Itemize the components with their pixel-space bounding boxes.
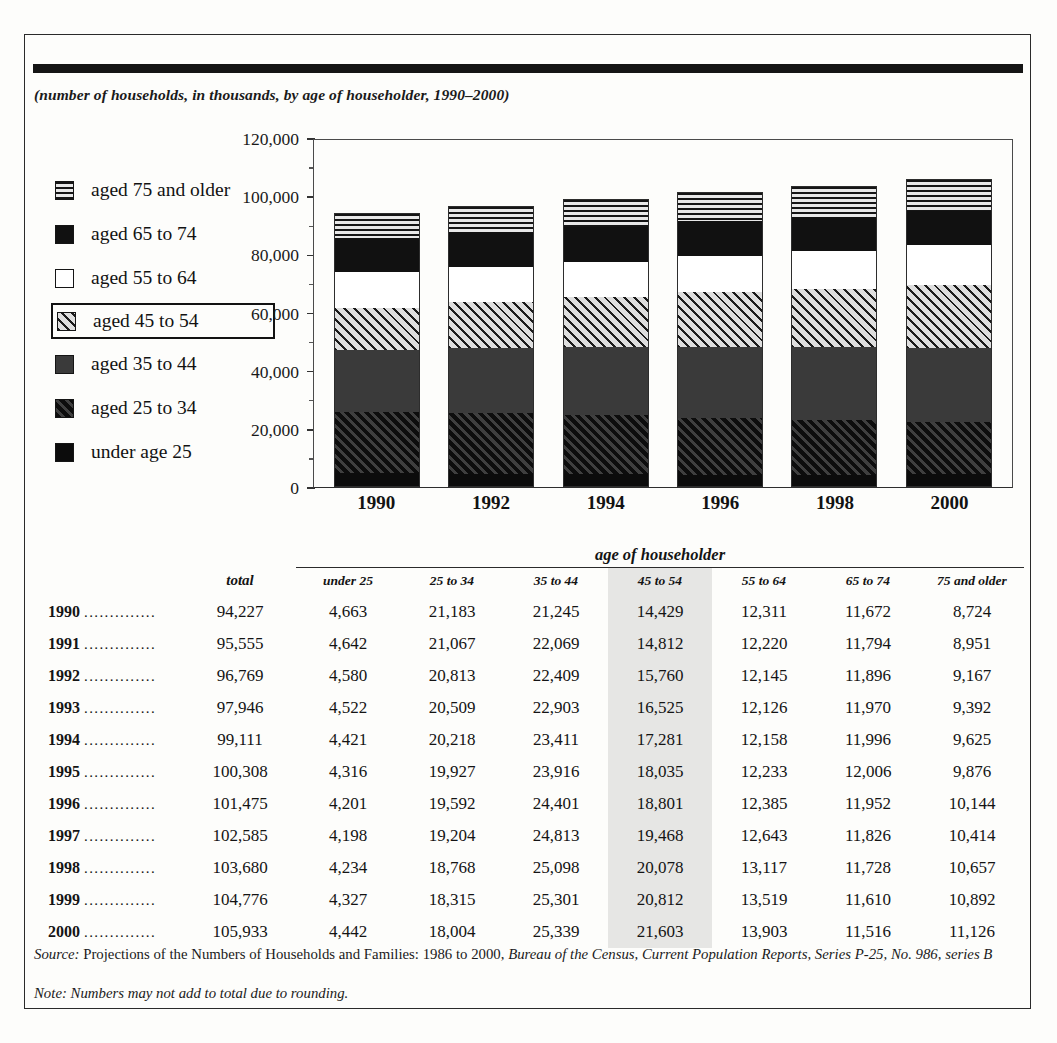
- table-cell: 9,625: [920, 724, 1024, 756]
- row-year: 1992 ..............: [34, 660, 184, 692]
- bar-segment: [677, 221, 763, 256]
- bar-segment: [448, 232, 534, 267]
- table-cell: 23,916: [504, 756, 608, 788]
- row-total: 96,769: [184, 660, 296, 692]
- source-text: Projections of the Numbers of Households…: [79, 946, 508, 962]
- x-axis-label: 1998: [792, 492, 878, 526]
- table-cell: 4,316: [296, 756, 400, 788]
- column-header-under-25: under 25: [296, 568, 400, 596]
- chart-plot-area: [313, 139, 1013, 488]
- bar-1994[interactable]: [563, 199, 649, 487]
- x-axis-labels: 199019921994199619982000: [313, 492, 1013, 526]
- y-axis: 120,000100,00080,00060,00040,00020,0000: [0, 139, 313, 488]
- table-row[interactable]: 1993 ..............97,9464,52220,50922,9…: [34, 692, 1024, 724]
- bar-segment: [677, 418, 763, 475]
- bar-1996[interactable]: [677, 192, 763, 487]
- source-citation: Bureau of the Census, Current Population…: [508, 946, 992, 962]
- y-axis-tick-label: 120,000: [242, 129, 299, 150]
- bar-1998[interactable]: [791, 186, 877, 487]
- bar-segment: [334, 412, 420, 474]
- bar-segment: [334, 272, 420, 308]
- year-column-header: [34, 568, 184, 596]
- row-total: 95,555: [184, 628, 296, 660]
- table-row[interactable]: 1998 ..............103,6804,23418,76825,…: [34, 852, 1024, 884]
- table-cell: 12,145: [712, 660, 816, 692]
- bar-segment: [448, 348, 534, 413]
- y-axis-tick-label: 80,000: [251, 245, 299, 266]
- row-total: 99,111: [184, 724, 296, 756]
- table-cell: 11,672: [816, 596, 920, 628]
- bar-segment: [791, 217, 877, 251]
- table-cell: 24,401: [504, 788, 608, 820]
- table-cell: 11,826: [816, 820, 920, 852]
- row-year: 1993 ..............: [34, 692, 184, 724]
- table-row[interactable]: 1991 ..............95,5554,64221,06722,0…: [34, 628, 1024, 660]
- table-cell: 12,643: [712, 820, 816, 852]
- table-cell: 4,327: [296, 884, 400, 916]
- table-cell: 11,610: [816, 884, 920, 916]
- bar-segment: [334, 238, 420, 272]
- y-axis-tick-label: 20,000: [251, 419, 299, 440]
- data-table-wrap: age of householder totalunder 2525 to 34…: [34, 545, 1024, 948]
- table-cell: 14,812: [608, 628, 712, 660]
- table-cell: 18,801: [608, 788, 712, 820]
- bar-segment: [563, 199, 649, 227]
- table-cell: 14,429: [608, 596, 712, 628]
- table-column-header-row: totalunder 2525 to 3435 to 4445 to 5455 …: [34, 568, 1024, 596]
- table-row[interactable]: 1994 ..............99,1114,42120,21823,4…: [34, 724, 1024, 756]
- bar-segment: [563, 415, 649, 474]
- table-row[interactable]: 1997 ..............102,5854,19819,20424,…: [34, 820, 1024, 852]
- table-cell: 21,067: [400, 628, 504, 660]
- y-axis-tick-label: 100,000: [242, 187, 299, 208]
- row-year: 1994 ..............: [34, 724, 184, 756]
- table-cell: 4,234: [296, 852, 400, 884]
- table-cell: 20,509: [400, 692, 504, 724]
- spacer-cell: [34, 545, 184, 567]
- row-total: 103,680: [184, 852, 296, 884]
- bar-segment: [791, 475, 877, 487]
- table-cell: 11,728: [816, 852, 920, 884]
- bar-1992[interactable]: [448, 206, 534, 487]
- table-row[interactable]: 1992 ..............96,7694,58020,81322,4…: [34, 660, 1024, 692]
- table-cell: 19,592: [400, 788, 504, 820]
- table-cell: 12,126: [712, 692, 816, 724]
- table-cell: 20,813: [400, 660, 504, 692]
- column-header-25-to-34: 25 to 34: [400, 568, 504, 596]
- table-cell: 12,385: [712, 788, 816, 820]
- row-year: 1991 ..............: [34, 628, 184, 660]
- table-cell: 11,996: [816, 724, 920, 756]
- table-cell: 12,158: [712, 724, 816, 756]
- note-label: Note:: [34, 985, 67, 1001]
- bar-segment: [906, 348, 992, 422]
- bar-segment: [563, 262, 649, 297]
- bar-segment: [906, 422, 992, 474]
- bar-segment: [563, 347, 649, 415]
- row-total: 102,585: [184, 820, 296, 852]
- bar-2000[interactable]: [906, 179, 992, 487]
- bar-1990[interactable]: [334, 213, 420, 487]
- table-cell: 15,760: [608, 660, 712, 692]
- x-axis-label: 2000: [907, 492, 993, 526]
- bar-segment: [334, 473, 420, 487]
- table-row[interactable]: 1990 ..............94,2274,66321,18321,2…: [34, 596, 1024, 628]
- table-cell: 10,414: [920, 820, 1024, 852]
- bar-segment: [906, 285, 992, 348]
- table-cell: 12,220: [712, 628, 816, 660]
- table-cell: 9,392: [920, 692, 1024, 724]
- bar-segment: [677, 475, 763, 487]
- data-table: age of householder totalunder 2525 to 34…: [34, 545, 1024, 948]
- table-row[interactable]: 1999 ..............104,7764,32718,31525,…: [34, 884, 1024, 916]
- table-cell: 25,098: [504, 852, 608, 884]
- table-cell: 19,468: [608, 820, 712, 852]
- bar-segment: [448, 267, 534, 302]
- bar-segment: [906, 179, 992, 211]
- bar-segment: [906, 245, 992, 285]
- table-cell: 4,198: [296, 820, 400, 852]
- table-cell: 20,812: [608, 884, 712, 916]
- table-row[interactable]: 1996 ..............101,4754,20119,59224,…: [34, 788, 1024, 820]
- table-cell: 11,896: [816, 660, 920, 692]
- table-body: 1990 ..............94,2274,66321,18321,2…: [34, 596, 1024, 948]
- bar-segment: [791, 251, 877, 289]
- table-cell: 19,927: [400, 756, 504, 788]
- table-row[interactable]: 1995 ..............100,3084,31619,92723,…: [34, 756, 1024, 788]
